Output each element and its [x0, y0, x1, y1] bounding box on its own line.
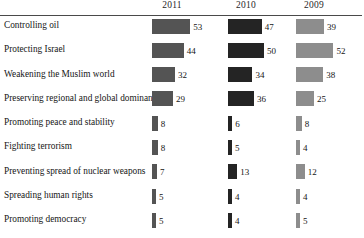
chart-row: Fighting terrorism854 — [0, 136, 364, 160]
bar-value-label: 36 — [257, 94, 266, 104]
bar — [152, 164, 157, 179]
bar-value-label: 5 — [303, 216, 308, 226]
bar-chart: 2011 2010 2009 Controlling oil534739Prot… — [0, 0, 364, 238]
bar — [296, 67, 323, 82]
bar — [228, 43, 264, 58]
bar — [152, 43, 184, 58]
bar — [296, 189, 300, 204]
bar — [152, 189, 156, 204]
bar-value-label: 25 — [317, 94, 326, 104]
bar — [228, 19, 262, 34]
chart-row: Preventing spread of nuclear weapons7131… — [0, 161, 364, 185]
bar — [296, 43, 333, 58]
bar-value-label: 7 — [160, 167, 165, 177]
bar-value-label: 8 — [161, 119, 166, 129]
bar-value-label: 29 — [176, 94, 185, 104]
bar — [296, 91, 314, 106]
bar — [152, 116, 158, 131]
bar — [228, 164, 237, 179]
bar-value-label: 4 — [303, 143, 308, 153]
category-label: Promoting peace and stability — [4, 117, 115, 128]
bar — [296, 116, 302, 131]
bar — [152, 67, 175, 82]
bar — [228, 189, 232, 204]
column-header-2011: 2011 — [152, 0, 192, 10]
bar-value-label: 53 — [193, 22, 202, 32]
chart-row: Weakening the Muslim world323438 — [0, 64, 364, 88]
bar — [152, 140, 158, 155]
chart-row: Spreading human rights544 — [0, 185, 364, 209]
bar-value-label: 34 — [255, 70, 264, 80]
chart-row: Controlling oil534739 — [0, 15, 364, 39]
bar — [152, 91, 173, 106]
chart-row: Preserving regional and global dominance… — [0, 88, 364, 112]
chart-row: Promoting peace and stability868 — [0, 112, 364, 136]
bar-value-label: 32 — [178, 70, 187, 80]
bar-value-label: 39 — [327, 22, 336, 32]
bar — [228, 91, 254, 106]
bar-value-label: 13 — [240, 167, 249, 177]
bar-value-label: 5 — [235, 143, 240, 153]
category-label: Controlling oil — [4, 20, 59, 31]
bar-value-label: 4 — [303, 192, 308, 202]
category-label: Spreading human rights — [4, 190, 93, 201]
category-label: Preventing spread of nuclear weapons — [4, 166, 145, 177]
bar — [228, 213, 232, 228]
bar-value-label: 50 — [267, 46, 276, 56]
bar — [228, 116, 232, 131]
bar-value-label: 6 — [235, 119, 240, 129]
bar — [296, 164, 305, 179]
bar — [152, 213, 156, 228]
category-label: Protecting Israel — [4, 44, 65, 55]
chart-header: 2011 2010 2009 — [0, 0, 364, 15]
bar-value-label: 8 — [305, 119, 310, 129]
bar — [228, 67, 252, 82]
chart-rows: Controlling oil534739Protecting Israel44… — [0, 15, 364, 234]
bar-value-label: 4 — [235, 216, 240, 226]
bar-value-label: 52 — [336, 46, 345, 56]
chart-row: Promoting democracy545 — [0, 209, 364, 233]
bar — [152, 19, 190, 34]
category-label: Fighting terrorism — [4, 141, 72, 152]
bar — [296, 19, 324, 34]
category-label: Promoting democracy — [4, 214, 86, 225]
bar — [296, 140, 300, 155]
category-label: Weakening the Muslim world — [4, 69, 115, 80]
column-header-2010: 2010 — [226, 0, 266, 10]
bar-value-label: 8 — [161, 143, 166, 153]
column-header-2009: 2009 — [294, 0, 334, 10]
chart-row: Protecting Israel445052 — [0, 39, 364, 63]
bar-value-label: 4 — [235, 192, 240, 202]
bar-value-label: 44 — [187, 46, 196, 56]
bar-value-label: 5 — [159, 192, 164, 202]
bar-value-label: 5 — [159, 216, 164, 226]
bar-value-label: 47 — [265, 22, 274, 32]
bar — [228, 140, 232, 155]
bar-value-label: 12 — [308, 167, 317, 177]
bar — [296, 213, 300, 228]
bar-value-label: 38 — [326, 70, 335, 80]
category-label: Preserving regional and global dominance — [4, 93, 161, 104]
